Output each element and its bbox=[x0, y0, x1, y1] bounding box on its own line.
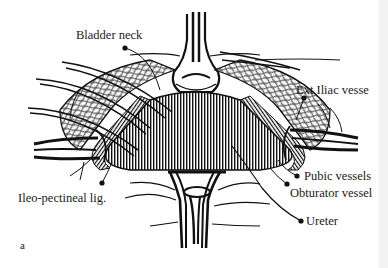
label-bladder-neck: Bladder neck bbox=[76, 29, 142, 42]
label-ileo-pectineal-lig: Ileo-pectineal lig. bbox=[18, 192, 106, 205]
ileo-pectineal-dot bbox=[99, 180, 104, 185]
ureter-dot bbox=[298, 218, 303, 223]
bladder-neck-dot bbox=[122, 45, 127, 50]
panel-letter: a bbox=[20, 240, 25, 251]
urethra-top bbox=[173, 12, 219, 92]
scan-edge bbox=[379, 0, 388, 268]
pubic-vessels-dot bbox=[294, 173, 299, 178]
label-obturator-vessel: Obturator vessel bbox=[290, 187, 372, 200]
label-ext-iliac-vessel: Ext Iliac vesse bbox=[296, 84, 369, 97]
obturator-dot bbox=[284, 181, 289, 186]
label-ureter: Ureter bbox=[306, 215, 338, 228]
urethra-bottom bbox=[168, 172, 226, 248]
label-pubic-vessels: Pubic vessels bbox=[304, 170, 371, 183]
